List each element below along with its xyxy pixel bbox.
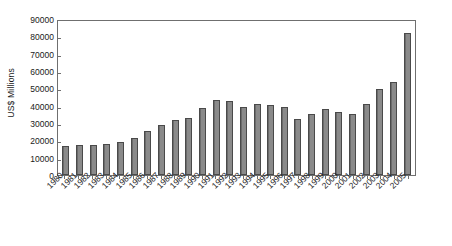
bar [404,33,411,175]
bar-slot [264,21,278,175]
bar [267,105,274,175]
x-axis-tick-labels: 1980198119821983198419851986198719881989… [57,181,416,229]
bar-slot [305,21,319,175]
bar-slot [223,21,237,175]
bar [390,82,397,175]
bar [349,114,356,175]
bar [281,107,288,175]
bar [172,120,179,175]
bar [376,89,383,175]
y-tick-label: 10000 [30,154,54,163]
bar [76,145,83,175]
bar [363,104,370,175]
bar-slot [318,21,332,175]
bar-slot [73,21,87,175]
bar-slot [387,21,401,175]
y-tick-label: 30000 [30,120,54,129]
bar-slot [100,21,114,175]
bar-slot [168,21,182,175]
bar [62,146,69,175]
bar-slot [86,21,100,175]
bar [308,114,315,175]
bar-slot [291,21,305,175]
bar [254,104,261,175]
bar [322,109,329,175]
y-axis-title-label: US$ Millions [6,68,16,118]
bar [144,131,151,175]
y-tick-label: 20000 [30,137,54,146]
bar [213,100,220,175]
bar [199,108,206,175]
bar [117,142,124,175]
bar-slot [359,21,373,175]
y-tick-label: 40000 [30,102,54,111]
bar-slot [400,21,414,175]
bar [294,119,301,175]
y-tick-label: 60000 [30,68,54,77]
y-tick-label: 50000 [30,85,54,94]
bar-series [58,21,415,175]
bar-slot [155,21,169,175]
y-axis-tick-labels: 0100002000030000400005000060000700008000… [16,20,54,176]
bar-slot [59,21,73,175]
bar-slot [182,21,196,175]
bar [335,112,342,175]
bar-slot [114,21,128,175]
bar [131,138,138,175]
bar [90,145,97,176]
bar-slot [250,21,264,175]
plot-area [57,20,416,176]
bar-slot [196,21,210,175]
bar [158,125,165,175]
bar-slot [127,21,141,175]
bar-chart-figure: US$ Millions 010000200003000040000500006… [0,0,452,246]
bar [185,118,192,175]
bar-slot [332,21,346,175]
x-label-slot: 2005 [401,181,415,229]
bar-slot [209,21,223,175]
bar [226,101,233,175]
y-tick-label: 70000 [30,50,54,59]
bar-slot [141,21,155,175]
bar-slot [237,21,251,175]
y-tick-label: 80000 [30,33,54,42]
bar-slot [346,21,360,175]
bar-slot [373,21,387,175]
bar-slot [278,21,292,175]
y-tick-label: 90000 [30,16,54,25]
bar [103,144,110,175]
bar [240,107,247,175]
